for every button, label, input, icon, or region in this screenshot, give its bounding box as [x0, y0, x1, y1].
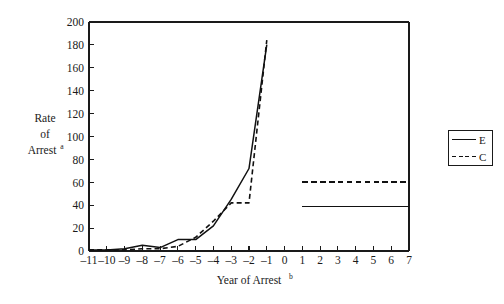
x-tick-label: –7: [153, 254, 166, 266]
x-tick-label: 4: [353, 254, 359, 266]
plot-frame: [89, 22, 409, 251]
y-axis-title-superscript: a: [60, 142, 64, 151]
x-tick-label: 6: [388, 254, 394, 266]
legend-label-e: E: [479, 134, 486, 146]
x-tick-label: –8: [136, 254, 149, 266]
y-axis-title-line1: Rate: [34, 112, 55, 124]
y-tick-label: 40: [73, 199, 85, 211]
x-axis-title-text: Year of Arrest: [217, 274, 282, 286]
y-tick-label: 80: [73, 154, 85, 166]
x-tick-label: –4: [207, 254, 220, 266]
series-line-c: [89, 40, 267, 250]
x-tick-label: –5: [189, 254, 202, 266]
x-tick-label: 5: [371, 254, 377, 266]
y-axis-title-line2: of: [40, 128, 50, 140]
y-tick-label: 120: [67, 108, 85, 120]
y-tick-label: 140: [67, 85, 85, 97]
legend-label-c: C: [479, 151, 486, 163]
y-tick-label: 180: [67, 39, 85, 51]
x-tick-label: –9: [118, 254, 131, 266]
x-tick-label: 7: [406, 254, 412, 266]
x-tick-label: 2: [317, 254, 323, 266]
x-axis-title-superscript: b: [289, 272, 293, 281]
y-tick-label: 100: [67, 131, 85, 143]
x-tick-label: –3: [224, 254, 237, 266]
x-tick-label: 0: [282, 254, 288, 266]
y-tick-label: 160: [67, 62, 85, 74]
series-line-e: [89, 45, 267, 250]
y-axis-tick-labels: 0 20 40 60 80 100 120 140 160 180 200: [67, 16, 85, 257]
x-tick-label: –2: [242, 254, 255, 266]
chart-figure: 0 20 40 60 80 100 120 140 160 180 200: [0, 0, 504, 304]
legend: E C: [449, 131, 493, 166]
x-tick-label: –1: [260, 254, 273, 266]
y-tick-label: 20: [73, 222, 85, 234]
x-tick-label: –10: [97, 254, 116, 266]
x-tick-label: –11: [80, 254, 98, 266]
x-axis-tick-labels: –11 –10 –9 –8 –7 –6 –5 –4 –3 –2 –1 0 1 2…: [80, 254, 413, 266]
y-tick-label: 200: [67, 16, 85, 28]
x-tick-label: 1: [299, 254, 305, 266]
y-axis-title-line3: Arrest: [28, 144, 58, 156]
line-chart: 0 20 40 60 80 100 120 140 160 180 200: [0, 0, 504, 304]
x-tick-label: 3: [335, 254, 341, 266]
x-axis-title: Year of Arrest b: [217, 272, 293, 286]
y-tick-label: 60: [73, 177, 85, 189]
x-tick-label: –6: [171, 254, 184, 266]
y-axis-title: Rate of Arrest a: [28, 112, 65, 156]
